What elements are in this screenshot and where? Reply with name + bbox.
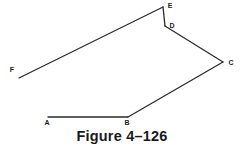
- segment-bc: [128, 62, 223, 117]
- vertex-label-e: E: [168, 2, 173, 9]
- vertex-label-f: F: [10, 66, 15, 73]
- segment-cd: [165, 26, 223, 62]
- segment-de: [163, 7, 165, 26]
- polyline-segments: [19, 7, 223, 117]
- figure-caption: Figure 4–126: [0, 128, 244, 144]
- figure-container: ABCDEF Figure 4–126: [0, 0, 244, 150]
- vertex-label-a: A: [44, 119, 49, 126]
- vertex-label-b: B: [124, 119, 129, 126]
- segment-ef: [19, 7, 163, 78]
- vertex-label-c: C: [228, 59, 233, 66]
- vertex-label-d: D: [169, 22, 174, 29]
- vertex-label-group: ABCDEF: [10, 2, 234, 126]
